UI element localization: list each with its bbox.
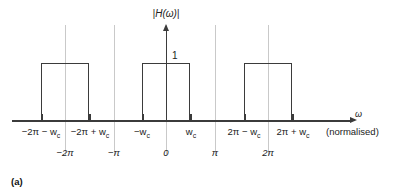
band-edge-text: −2π − w [22, 126, 57, 137]
y-axis-label: |H(ω)| [153, 8, 180, 19]
gridline-label-minus-2pi: −2π [56, 148, 73, 158]
gridline-label-pi: π [212, 148, 218, 158]
y-axis-arrow [163, 24, 169, 31]
band-edge-label-minus-2pi-plus-wc: −2π + wc [71, 127, 110, 139]
gridline-label-minus-pi: −π [108, 148, 120, 158]
band-edge-subscript: c [106, 132, 110, 139]
band-edge-text: 2π − w [227, 126, 257, 137]
tick-minus-wc [142, 114, 144, 121]
tick-minus-2pi-plus-wc [89, 114, 91, 121]
band-edge-subscript: c [193, 132, 197, 139]
band-edge-subscript: c [146, 132, 150, 139]
band-edge-label-2pi-plus-wc: 2π + wc [276, 127, 309, 139]
band-edge-subscript: c [257, 132, 261, 139]
band-edge-text: −2π + w [71, 126, 106, 137]
filter-response-figure: |H(ω)| 1 ω (normalised) −2π − wc −2π + w… [0, 0, 403, 196]
gridline-label-zero: 0 [163, 148, 168, 158]
y-axis-line [166, 30, 168, 121]
band-edge-label-plus-wc: wc [186, 127, 196, 139]
band-edge-label-2pi-minus-wc: 2π − wc [227, 127, 260, 139]
x-axis-line [12, 120, 351, 122]
band-edge-label-minus-2pi-minus-wc: −2π − wc [22, 127, 61, 139]
passband-left-replica [41, 63, 89, 122]
tick-2pi-minus-wc [244, 114, 246, 121]
band-edge-text: −w [134, 126, 146, 137]
band-edge-subscript: c [57, 132, 61, 139]
tick-plus-wc [190, 114, 192, 121]
gridline-label-2pi: 2π [262, 148, 274, 158]
band-edge-text: w [186, 126, 193, 137]
tick-minus-2pi-minus-wc [41, 114, 43, 121]
x-axis-normalised-label: (normalised) [326, 126, 379, 137]
passband-right-replica [244, 63, 292, 122]
x-axis-omega-label: ω [355, 109, 362, 119]
band-edge-label-minus-wc: −wc [134, 127, 150, 139]
band-edge-subscript: c [306, 132, 310, 139]
peak-value-label: 1 [172, 50, 178, 61]
panel-label: (a) [11, 176, 23, 187]
band-edge-text: 2π + w [276, 126, 306, 137]
tick-2pi-plus-wc [292, 114, 294, 121]
gridline-pi [215, 25, 216, 155]
gridline-minus-pi [114, 25, 115, 155]
